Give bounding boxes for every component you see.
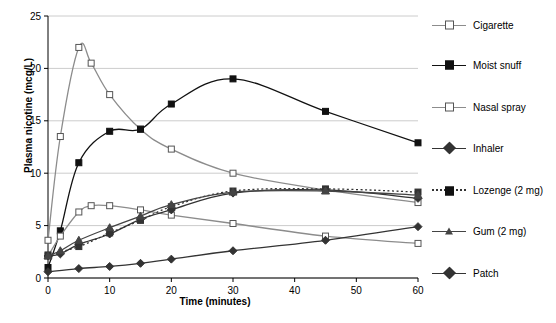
y-axis-title: Plasma nicotine (mcg/L) (23, 36, 34, 196)
svg-text:0: 0 (45, 285, 51, 296)
legend-label-moist-snuff: Moist snuff (473, 60, 521, 71)
filled-square-icon (445, 61, 454, 70)
line-chart-svg: 05101520250102030405060 (0, 0, 430, 323)
legend-line-moist-snuff (432, 65, 466, 66)
legend-label-patch: Patch (473, 268, 499, 279)
svg-text:10: 10 (104, 285, 116, 296)
svg-text:60: 60 (412, 285, 424, 296)
legend-item-inhaler[interactable]: Inhaler (432, 141, 504, 155)
svg-text:5: 5 (35, 220, 41, 231)
legend-item-gum[interactable]: Gum (2 mg) (432, 224, 526, 238)
legend-line-patch (432, 273, 466, 274)
filled-diamond-icon (443, 267, 456, 280)
svg-text:25: 25 (30, 11, 42, 22)
plot-area: 05101520250102030405060 Plasma nicotine … (0, 0, 430, 323)
legend-line-gum (432, 231, 466, 232)
chart-figure: 05101520250102030405060 Plasma nicotine … (0, 0, 556, 323)
legend-item-patch[interactable]: Patch (432, 266, 499, 280)
legend-label-cigarette: Cigarette (473, 20, 514, 31)
legend-item-nasal-spray[interactable]: Nasal spray (432, 100, 526, 114)
legend-line-lozenge (432, 189, 466, 191)
svg-text:40: 40 (289, 285, 301, 296)
svg-text:30: 30 (227, 285, 239, 296)
legend-label-nasal-spray: Nasal spray (473, 102, 526, 113)
legend-line-nasal-spray (432, 107, 466, 108)
legend-item-moist-snuff[interactable]: Moist snuff (432, 58, 521, 72)
open-square-icon (445, 103, 454, 112)
legend-label-inhaler: Inhaler (473, 143, 504, 154)
filled-diamond-icon (443, 142, 456, 155)
legend-line-cigarette (432, 25, 466, 26)
filled-triangle-icon (445, 228, 453, 235)
legend-label-lozenge: Lozenge (2 mg) (473, 185, 543, 196)
legend-item-cigarette[interactable]: Cigarette (432, 18, 514, 32)
svg-text:20: 20 (166, 285, 178, 296)
svg-text:0: 0 (35, 273, 41, 284)
series-line-0 (48, 43, 418, 240)
legend-line-inhaler (432, 148, 466, 149)
filled-square-icon (445, 187, 454, 196)
chart-legend: Cigarette Moist snuff Nasal spray Inhale… (432, 8, 556, 308)
x-axis-title: Time (minutes) (0, 296, 430, 307)
legend-item-lozenge[interactable]: Lozenge (2 mg) (432, 183, 543, 197)
legend-label-gum: Gum (2 mg) (473, 226, 526, 237)
open-square-icon (445, 21, 454, 30)
svg-text:50: 50 (351, 285, 363, 296)
